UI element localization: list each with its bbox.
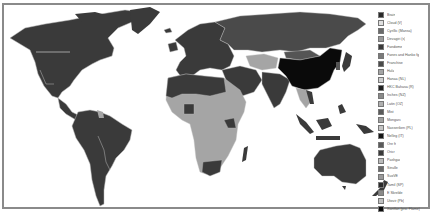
legend-item: Oricr	[378, 149, 432, 157]
legend-swatch	[378, 69, 384, 75]
legend-label: Fanes and Hanko fg	[387, 53, 419, 58]
legend-label: Nasseriken (PL)	[387, 126, 413, 131]
legend-item: SuxVE	[378, 173, 432, 181]
legend-swatch	[378, 182, 384, 188]
legend-label: Pashgar	[387, 158, 400, 163]
legend-label: Nelleg (IT)	[387, 134, 404, 139]
legend-swatch	[378, 198, 384, 204]
legend-item: Mongarc	[378, 116, 432, 124]
legend-item: Cyrillic (Mansa)	[378, 27, 432, 35]
region-greenland	[130, 7, 160, 34]
region-madagascar	[242, 146, 248, 162]
region-south-america	[72, 110, 132, 206]
legend-swatch	[378, 125, 384, 131]
region-central-asia	[246, 54, 278, 70]
legend-swatch	[378, 133, 384, 139]
legend-label: Tamil (SP)	[387, 183, 404, 188]
legend-swatch	[378, 12, 384, 18]
legend-swatch	[378, 142, 384, 148]
legend-item: Fanes and Hanko fg	[378, 51, 432, 59]
legend-item: Pashgar	[378, 157, 432, 165]
legend-item: HKC Bahasa (R)	[378, 84, 432, 92]
legend-label: HKC Bahasa (R)	[387, 85, 414, 90]
region-australia	[314, 144, 366, 184]
legend-swatch	[378, 53, 384, 59]
legend-label: Mist	[387, 110, 394, 115]
legend-item: Ore fr	[378, 141, 432, 149]
legend-label: Hanaa (NL)	[387, 77, 406, 82]
world-map	[0, 0, 434, 214]
legend-item: Franchise	[378, 60, 432, 68]
region-russia	[215, 12, 366, 52]
legend-swatch	[378, 77, 384, 83]
legend-item: Fandome	[378, 43, 432, 51]
legend-label: Oricr	[387, 150, 395, 155]
legend-swatch	[378, 117, 384, 123]
legend-item: E Skrelde	[378, 189, 432, 197]
legend-item: Cloud (V)	[378, 19, 432, 27]
legend-label: Mongarc	[387, 118, 401, 123]
legend-swatch	[378, 190, 384, 196]
legend-item: Xantfan (pro. Flame)	[378, 205, 432, 213]
legend-swatch	[378, 166, 384, 172]
legend-item: Inches (NZ)	[378, 92, 432, 100]
legend-label: Latin (OZ)	[387, 102, 403, 107]
legend-swatch	[378, 158, 384, 164]
legend-label: E Skrelde	[387, 191, 403, 196]
legend-label: Inches (NZ)	[387, 93, 406, 98]
legend-item: Utovir (Pb)	[378, 197, 432, 205]
region-indonesia	[296, 104, 374, 140]
legend-label: SuxVE	[387, 174, 398, 179]
legend-label: Cyrillic (Mansa)	[387, 29, 412, 34]
legend-swatch	[378, 174, 384, 180]
legend-swatch	[378, 101, 384, 107]
legend-label: Brain	[387, 13, 395, 18]
legend-item: Sinulle	[378, 165, 432, 173]
legend-item: Nelleg (IT)	[378, 132, 432, 140]
legend-item: Devagiri (s)	[378, 35, 432, 43]
legend-item: Latin (OZ)	[378, 100, 432, 108]
legend-swatch	[378, 44, 384, 50]
legend: Brain Cloud (V) Cyrillic (Mansa) Devagir…	[378, 11, 432, 213]
legend-swatch	[378, 36, 384, 42]
legend-label: Utovir (Pb)	[387, 199, 404, 204]
legend-swatch	[378, 109, 384, 115]
legend-swatch	[378, 28, 384, 34]
legend-label: Ore fr	[387, 142, 396, 147]
legend-item: Hula	[378, 68, 432, 76]
legend-label: Hula	[387, 69, 394, 74]
region-japan	[342, 52, 352, 72]
legend-label: Devagiri (s)	[387, 37, 405, 42]
legend-swatch	[378, 206, 384, 212]
legend-item: Mist	[378, 108, 432, 116]
legend-swatch	[378, 93, 384, 99]
legend-label: Xantfan (pro. Flame)	[387, 207, 420, 212]
legend-label: Franchise	[387, 61, 403, 66]
region-africa	[166, 74, 246, 176]
legend-swatch	[378, 85, 384, 91]
legend-item: Tamil (SP)	[378, 181, 432, 189]
legend-item: Nasseriken (PL)	[378, 124, 432, 132]
region-korea	[336, 62, 340, 70]
region-tasmania	[342, 186, 346, 190]
legend-item: Hanaa (NL)	[378, 76, 432, 84]
region-india	[262, 72, 290, 108]
legend-item: Brain	[378, 11, 432, 19]
legend-swatch	[378, 150, 384, 156]
legend-label: Cloud (V)	[387, 21, 402, 26]
legend-swatch	[378, 61, 384, 67]
legend-swatch	[378, 20, 384, 26]
legend-label: Fandome	[387, 45, 402, 50]
region-north-america	[10, 10, 140, 120]
legend-label: Sinulle	[387, 166, 398, 171]
